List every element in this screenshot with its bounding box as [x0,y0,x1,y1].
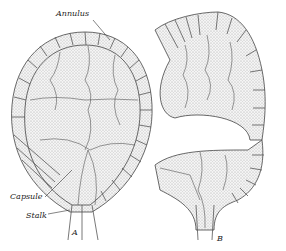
panel-b-label: B [217,234,223,243]
annulus-label: Annulus [56,9,89,18]
stalk-label: Stalk [26,211,47,220]
capsule-label: Capsule [10,192,43,201]
sporangium-a [12,32,153,240]
sporangium-b [155,12,265,240]
panel-a-label: A [72,228,78,237]
stalk-leader [48,210,70,214]
